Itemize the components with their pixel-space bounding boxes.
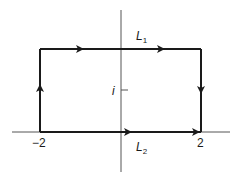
contour-diagram: i L1 L2 −2 2 xyxy=(0,0,244,177)
label-L1-main: L xyxy=(136,29,143,43)
label-L2-main: L xyxy=(136,140,143,154)
label-neg2: −2 xyxy=(32,136,46,150)
label-L2-sub: 2 xyxy=(143,147,148,156)
label-i: i xyxy=(112,84,115,98)
label-L1: L1 xyxy=(136,29,148,45)
label-L1-sub: 1 xyxy=(143,36,148,45)
label-2: 2 xyxy=(197,136,204,150)
label-L2: L2 xyxy=(136,140,148,156)
